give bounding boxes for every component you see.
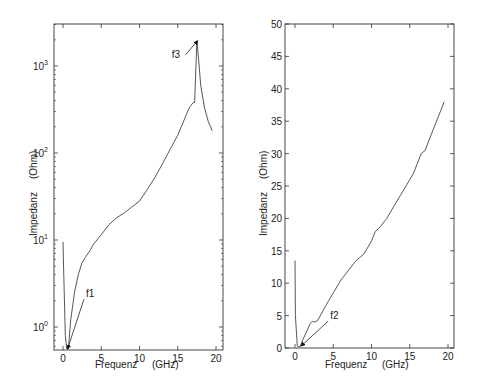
axis-ticks: [54, 24, 223, 350]
annotations: f1f3: [68, 41, 198, 349]
y-tick-label: 10: [271, 278, 283, 289]
impedance-line: [295, 102, 444, 347]
plot-frame: [54, 24, 223, 350]
plot-frame: [285, 24, 454, 348]
y-tick-label: 40: [271, 84, 283, 95]
y-tick-labels: 05101520253035404550: [271, 19, 283, 354]
x-tick-labels: 05101520: [292, 351, 454, 362]
x-tick-label: 20: [442, 351, 454, 362]
chart-right-linear-impedance: 05101520 05101520253035404550 f2 Frequen…: [258, 19, 454, 370]
x-tick-label: 0: [60, 353, 66, 364]
chart-left-log-impedance: 05101520 100101102103 f1f3 Frequenz (GHz…: [28, 24, 223, 370]
annotation-arrow: [186, 41, 198, 55]
y-axis-unit: (Ohm): [28, 151, 39, 179]
y-tick-label: 50: [271, 19, 283, 30]
y-tick-label: 30: [271, 149, 283, 160]
x-axis-label: Frequenz: [95, 359, 137, 370]
annotation-f2: f2: [330, 310, 339, 321]
y-axis-label: Impedanz: [258, 192, 269, 236]
axis-ticks: [285, 24, 454, 348]
y-tick-label: 15: [271, 246, 283, 257]
x-axis-label: Frequenz: [325, 359, 367, 370]
x-axis-unit: (GHz): [152, 359, 179, 370]
x-tick-label: 20: [210, 353, 222, 364]
x-axis-unit: (GHz): [382, 359, 409, 370]
y-tick-label: 45: [271, 51, 283, 62]
annotation-f3: f3: [172, 49, 181, 60]
y-tick-label: 25: [271, 181, 283, 192]
annotation-f1: f1: [86, 288, 95, 299]
figure: 05101520 100101102103 f1f3 Frequenz (GHz…: [0, 0, 477, 391]
impedance-line: [63, 41, 212, 349]
y-axis-label: Impedanz: [28, 192, 39, 236]
y-tick-label: 35: [271, 116, 283, 127]
y-tick-label: 100: [33, 320, 48, 333]
y-axis-unit: (Ohm): [258, 151, 269, 179]
x-tick-label: 0: [292, 351, 298, 362]
y-tick-label: 20: [271, 213, 283, 224]
x-tick-label: 10: [366, 351, 378, 362]
y-tick-label: 5: [276, 311, 282, 322]
x-tick-labels: 05101520: [60, 353, 222, 364]
y-tick-label: 0: [276, 343, 282, 354]
y-tick-label: 103: [33, 59, 48, 72]
